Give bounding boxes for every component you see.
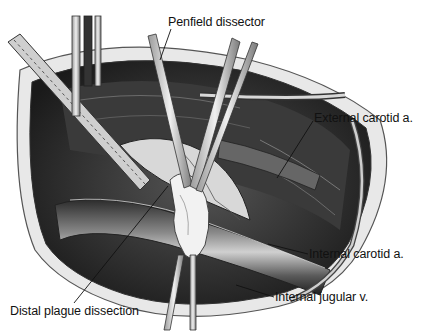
label-external-carotid: External carotid a. xyxy=(314,112,413,125)
label-internal-jugular: Internal jugular v. xyxy=(275,291,368,304)
surgical-illustration xyxy=(0,0,425,333)
label-internal-carotid: Internal carotid a. xyxy=(309,248,404,261)
label-penfield-dissector: Penfield dissector xyxy=(168,16,265,29)
label-distal-plaque-dissection: Distal plague dissection xyxy=(10,305,139,318)
